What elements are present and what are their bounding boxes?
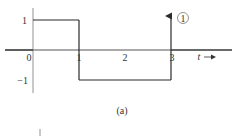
x-tick-0: 0 — [27, 52, 32, 63]
arrow-right-icon — [211, 55, 216, 60]
y-tick-pos-one: 1 — [22, 15, 27, 26]
figure-caption: (a) — [116, 105, 127, 117]
x-tick-3: 3 — [170, 52, 175, 63]
signal-plot: 1 1 −1 0 1 2 3 t (a) — [0, 0, 236, 136]
x-tick-2: 2 — [123, 52, 128, 63]
x-tick-1: 1 — [77, 52, 82, 63]
y-tick-neg-one: −1 — [17, 75, 28, 86]
x-axis-label: t — [198, 51, 201, 62]
impulse-strength-label: 1 — [181, 13, 186, 24]
